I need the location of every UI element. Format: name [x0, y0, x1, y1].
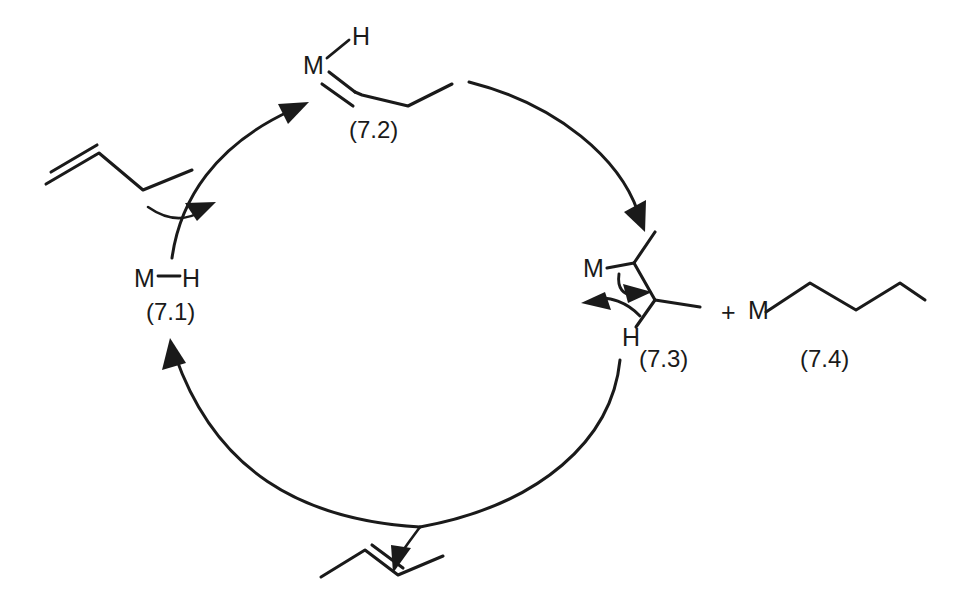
atom-label-hydride-7-2: H	[352, 24, 370, 49]
atom-label-metal-7-3: M	[583, 256, 604, 281]
compound-label-7-2: (7.2)	[349, 118, 398, 142]
substrate-feed-arrow	[148, 202, 216, 221]
reaction-scheme-canvas: M H (7.2) M H (7.1) M H (7.3) + M (7.4)	[0, 0, 962, 600]
structure-2-butene	[321, 545, 443, 577]
atom-label-hydride-7-3: H	[622, 325, 640, 350]
compound-label-7-3: (7.3)	[639, 347, 688, 371]
cycle-arrow-7-3-to-product	[420, 360, 620, 527]
compound-label-7-4: (7.4)	[800, 347, 849, 371]
plus-sign-7-4: +	[721, 300, 736, 325]
cycle-arrow-7-1-to-7-2	[172, 102, 309, 258]
compound-label-7-1: (7.1)	[146, 300, 195, 324]
atom-label-metal-7-4: M	[748, 298, 769, 323]
structure-7-3	[607, 232, 700, 327]
structure-1-butene	[46, 145, 192, 190]
atom-label-metal-7-2: M	[303, 53, 324, 78]
cycle-arrow-bottom-to-7-1	[162, 338, 420, 527]
atom-label-hydride-7-1: H	[182, 266, 200, 291]
scheme-vector-layer	[0, 0, 962, 600]
structure-7-4	[766, 283, 925, 312]
cycle-arrow-7-2-to-7-3	[469, 82, 646, 232]
structure-7-2	[322, 40, 452, 106]
atom-label-metal-7-1: M	[134, 266, 155, 291]
